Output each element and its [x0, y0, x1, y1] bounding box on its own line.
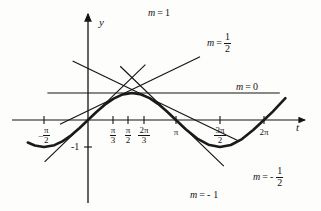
- x-axis-label: t: [296, 122, 299, 133]
- minus-sign: -: [270, 172, 273, 182]
- slope-value: 0: [253, 82, 258, 92]
- tick-fraction: π2: [125, 126, 132, 146]
- slope-var-m: m: [236, 82, 243, 92]
- fraction-numerator: 1: [276, 166, 283, 178]
- tangent-m-half: [60, 57, 200, 125]
- slope-var-m: m: [253, 172, 260, 182]
- equals-sign: =: [245, 82, 251, 92]
- minus-sign: -: [207, 190, 210, 200]
- slope-label-m-equals-0: m = 0: [236, 82, 258, 92]
- tick-fraction: 2π3: [138, 126, 149, 146]
- tick-value: π: [174, 127, 179, 137]
- tangent-lines-group: [45, 57, 280, 166]
- tick-fraction: 3π2: [214, 126, 225, 146]
- fraction-denominator: 2: [43, 136, 50, 145]
- tick-fraction: π3: [110, 126, 117, 146]
- tick-fraction: π2: [43, 126, 50, 146]
- sine-tangent-slopes-figure: y t –π2π3π22π3π3π22π -1 m = 1 m = 1 2 m …: [0, 0, 321, 211]
- fraction-numerator: 1: [224, 32, 231, 44]
- slope-value-fraction: 1 2: [276, 166, 283, 188]
- slope-label-m-equals-1: m = 1: [148, 8, 170, 18]
- x-tick-label-neg-pi-over-2: –π2: [33, 126, 55, 146]
- x-tick-label-two-pi-over-3: 2π3: [133, 126, 155, 146]
- x-tick-label-two-pi: 2π: [253, 128, 275, 137]
- slope-value-fraction: 1 2: [224, 32, 231, 54]
- fraction-denominator: 3: [110, 136, 117, 145]
- equals-sign: =: [216, 38, 222, 48]
- fraction-denominator: 2: [224, 44, 231, 55]
- equals-sign: =: [157, 8, 163, 18]
- y-tick-label-minus-one: -1: [71, 142, 79, 152]
- slope-label-m-equals-neg-1: m = - 1: [190, 190, 218, 200]
- x-tick-label-three-pi-over-2: 3π2: [209, 126, 231, 146]
- slope-var-m: m: [207, 38, 214, 48]
- equals-sign: =: [262, 172, 268, 182]
- y-axis-label: y: [99, 17, 104, 28]
- fraction-denominator: 3: [138, 136, 149, 145]
- fraction-denominator: 2: [276, 178, 283, 189]
- tick-value: 2π: [259, 127, 268, 137]
- slope-var-m: m: [190, 190, 197, 200]
- slope-label-m-equals-one-half: m = 1 2: [207, 32, 231, 54]
- slope-var-m: m: [148, 8, 155, 18]
- equals-sign: =: [199, 190, 205, 200]
- x-tick-label-pi: π: [165, 128, 187, 137]
- fraction-denominator: 2: [125, 136, 132, 145]
- slope-value: 1: [213, 190, 218, 200]
- slope-label-m-equals-neg-one-half: m = - 1 2: [253, 166, 283, 188]
- slope-value: 1: [165, 8, 170, 18]
- fraction-denominator: 2: [214, 136, 225, 145]
